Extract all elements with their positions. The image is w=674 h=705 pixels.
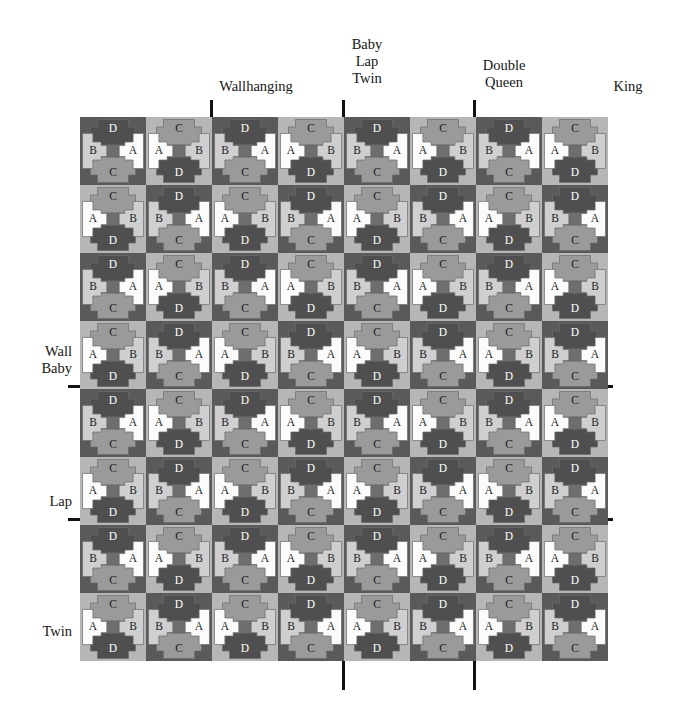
piece-label-d: D	[505, 642, 513, 654]
piece-label-b: B	[525, 484, 533, 496]
piece-label-d: D	[505, 370, 513, 382]
piece-label-d: D	[373, 234, 381, 246]
piece-label-c: C	[307, 530, 315, 542]
piece-label-c: C	[241, 462, 249, 474]
piece-label-b: B	[155, 348, 163, 360]
piece-label-b: B	[221, 416, 229, 428]
piece-label-c: C	[241, 302, 249, 314]
piece-label-d: D	[307, 190, 315, 202]
center-square	[173, 213, 185, 225]
piece-label-b: B	[195, 144, 203, 156]
piece-label-c: C	[241, 438, 249, 450]
piece-label-d: D	[307, 598, 315, 610]
piece-label-c: C	[505, 190, 513, 202]
piece-label-b: B	[525, 348, 533, 360]
piece-label-c: C	[109, 326, 117, 338]
center-square	[305, 417, 317, 429]
center-square	[107, 145, 119, 157]
center-square	[239, 621, 251, 633]
piece-label-c: C	[241, 190, 249, 202]
quilt-block: ABDC	[212, 457, 278, 525]
piece-label-a: A	[591, 348, 600, 360]
quilt-block: ABDC	[476, 389, 542, 457]
quilt-block: ABDC	[542, 593, 608, 661]
quilt-block: ABDC	[344, 593, 410, 661]
center-square	[371, 213, 383, 225]
piece-label-c: C	[571, 530, 579, 542]
piece-label-b: B	[327, 416, 335, 428]
quilt-block: ABDC	[410, 457, 476, 525]
piece-label-b: B	[327, 552, 335, 564]
piece-label-d: D	[241, 506, 249, 518]
piece-label-d: D	[307, 302, 315, 314]
piece-label-b: B	[353, 280, 361, 292]
quilt-block: ABDC	[212, 389, 278, 457]
piece-label-b: B	[195, 552, 203, 564]
quilt-block: ABDC	[80, 457, 146, 525]
piece-label-c: C	[439, 642, 447, 654]
piece-label-c: C	[109, 302, 117, 314]
piece-label-b: B	[419, 212, 427, 224]
piece-label-d: D	[571, 462, 579, 474]
piece-label-b: B	[591, 280, 599, 292]
piece-label-d: D	[439, 438, 447, 450]
piece-label-c: C	[241, 326, 249, 338]
piece-label-a: A	[155, 144, 164, 156]
piece-label-d: D	[307, 438, 315, 450]
piece-label-b: B	[459, 280, 467, 292]
center-square	[239, 145, 251, 157]
center-square	[239, 281, 251, 293]
piece-label-d: D	[505, 394, 513, 406]
piece-label-c: C	[307, 122, 315, 134]
piece-label-d: D	[109, 530, 117, 542]
center-square	[107, 213, 119, 225]
center-square	[107, 417, 119, 429]
quilt-block: ABDC	[476, 525, 542, 593]
piece-label-b: B	[551, 484, 559, 496]
piece-label-c: C	[373, 302, 381, 314]
center-square	[173, 485, 185, 497]
quilt-block: ABDC	[278, 117, 344, 185]
quilt-block: ABDC	[212, 253, 278, 321]
piece-label-d: D	[109, 506, 117, 518]
piece-label-a: A	[195, 348, 204, 360]
piece-label-a: A	[353, 212, 362, 224]
quilt-block: ABDC	[476, 457, 542, 525]
piece-label-a: A	[89, 212, 98, 224]
quilt-block: ABDC	[146, 525, 212, 593]
top-size-label-king: King	[558, 78, 674, 95]
piece-label-a: A	[155, 416, 164, 428]
piece-label-c: C	[109, 438, 117, 450]
center-square	[437, 145, 449, 157]
piece-label-b: B	[261, 212, 269, 224]
piece-label-d: D	[373, 122, 381, 134]
quilt-block: ABDC	[344, 321, 410, 389]
center-square	[371, 417, 383, 429]
piece-label-b: B	[221, 280, 229, 292]
piece-label-c: C	[571, 122, 579, 134]
piece-label-d: D	[439, 462, 447, 474]
quilt-block: ABDC	[542, 457, 608, 525]
center-square	[107, 485, 119, 497]
quilt-block: ABDC	[410, 185, 476, 253]
piece-label-c: C	[505, 438, 513, 450]
piece-label-b: B	[419, 620, 427, 632]
piece-label-a: A	[591, 212, 600, 224]
piece-label-c: C	[505, 598, 513, 610]
piece-label-a: A	[261, 144, 270, 156]
top-size-label-baby-lap-twin: Baby Lap Twin	[297, 36, 437, 87]
piece-label-c: C	[373, 598, 381, 610]
piece-label-a: A	[353, 348, 362, 360]
quilt-block: ABDC	[278, 457, 344, 525]
piece-label-b: B	[195, 280, 203, 292]
quilt-row: ABDCABDCABDCABDCABDCABDCABDCABDC	[80, 321, 608, 389]
piece-label-c: C	[241, 574, 249, 586]
quilt-block: ABDC	[146, 389, 212, 457]
piece-label-b: B	[89, 280, 97, 292]
piece-label-d: D	[373, 258, 381, 270]
piece-label-d: D	[109, 122, 117, 134]
piece-label-a: A	[393, 144, 402, 156]
piece-label-b: B	[261, 348, 269, 360]
quilt-block: ABDC	[146, 593, 212, 661]
piece-label-a: A	[419, 144, 428, 156]
